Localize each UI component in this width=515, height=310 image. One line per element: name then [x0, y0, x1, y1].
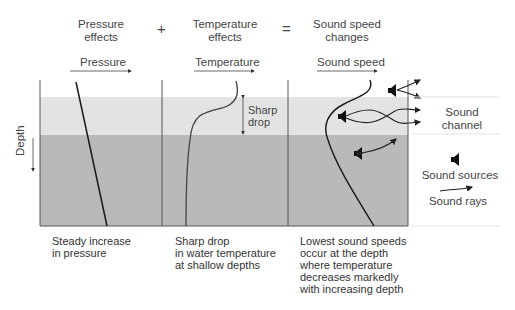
- dark-band-deep-layer: [40, 135, 408, 226]
- pressure-axis-label: Pressure: [80, 56, 126, 68]
- sound-speed-changes-header: Sound speed changes: [312, 18, 382, 44]
- temperature-caption: Sharp drop in water temperature at shall…: [175, 235, 276, 271]
- legend-sound-channel-label: Sound channel: [432, 106, 492, 132]
- pressure-caption: Steady increase in pressure: [52, 235, 131, 259]
- sharp-drop-label: Sharp drop: [248, 104, 277, 128]
- pressure-effects-header: Pressure effects: [70, 18, 132, 44]
- sound-speed-axis-label: Sound speed: [317, 56, 385, 68]
- sound-speed-caption: Lowest sound speeds occur at the depth w…: [300, 235, 406, 295]
- legend-sound-ray-icon: [440, 187, 472, 191]
- depth-axis-label: Depth: [14, 125, 26, 156]
- light-band-surface-layer: [40, 97, 408, 135]
- plus-operator: +: [157, 20, 166, 37]
- legend-sound-source-icon: [451, 153, 459, 166]
- temperature-effects-header: Temperature effects: [192, 18, 258, 44]
- sound-source-icon-top: [388, 84, 396, 97]
- temperature-axis-label: Temperature: [195, 56, 260, 68]
- equals-operator: =: [282, 20, 291, 37]
- legend-sound-sources-label: Sound sources: [412, 169, 508, 182]
- legend-sound-rays-label: Sound rays: [420, 195, 496, 208]
